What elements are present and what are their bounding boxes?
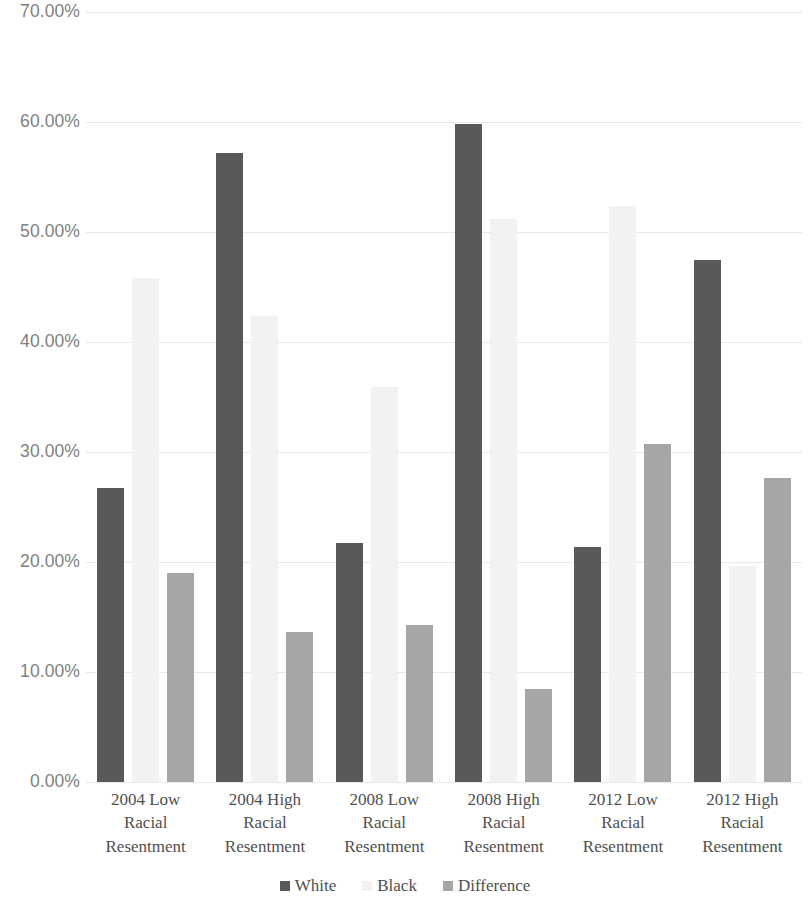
bar-difference[interactable] <box>764 478 791 782</box>
x-axis-tick-label-line: 2004 Low <box>86 788 205 811</box>
x-axis-tick-label-line: 2012 High <box>683 788 802 811</box>
x-axis-tick-label: 2004 LowRacialResentment <box>86 788 205 858</box>
x-axis-tick-label: 2008 LowRacialResentment <box>325 788 444 858</box>
bar-slot <box>336 12 363 782</box>
x-axis-tick-label: 2008 HighRacialResentment <box>444 788 563 858</box>
bar-slot <box>216 12 243 782</box>
y-axis-tick-label: 40.00% <box>2 333 80 351</box>
bar-black[interactable] <box>490 219 517 782</box>
bar-slot <box>406 12 433 782</box>
bar-group <box>325 12 444 782</box>
y-axis-tick-label: 30.00% <box>2 443 80 461</box>
bar-group <box>86 12 205 782</box>
x-axis-tick-label-line: Resentment <box>444 835 563 858</box>
bar-white[interactable] <box>574 547 601 782</box>
legend-label: White <box>295 876 337 896</box>
bar-slot <box>97 12 124 782</box>
bar-white[interactable] <box>216 153 243 782</box>
legend-item-difference[interactable]: Difference <box>443 876 530 896</box>
bar-chart: 0.00%10.00%20.00%30.00%40.00%50.00%60.00… <box>0 0 810 907</box>
x-axis-tick-label-line: Racial <box>325 811 444 834</box>
bar-slot <box>525 12 552 782</box>
bar-slot <box>371 12 398 782</box>
bar-slot <box>490 12 517 782</box>
bar-slot <box>644 12 671 782</box>
bar-black[interactable] <box>132 278 159 782</box>
y-axis-tick-label: 50.00% <box>2 223 80 241</box>
y-axis-tick-label: 10.00% <box>2 663 80 681</box>
bar-group <box>563 12 682 782</box>
y-axis-tick-label: 20.00% <box>2 553 80 571</box>
x-axis-tick-label-line: Resentment <box>205 835 324 858</box>
legend-item-white[interactable]: White <box>280 876 337 896</box>
bar-slot <box>286 12 313 782</box>
bar-white[interactable] <box>694 260 721 783</box>
bar-groups <box>86 12 802 782</box>
x-axis-tick-label: 2012 HighRacialResentment <box>683 788 802 858</box>
bar-slot <box>574 12 601 782</box>
x-axis-tick-label-line: Resentment <box>325 835 444 858</box>
bar-slot <box>694 12 721 782</box>
bar-black[interactable] <box>251 316 278 782</box>
legend-swatch-icon <box>362 881 372 891</box>
bar-slot <box>167 12 194 782</box>
x-axis-tick-label-line: Resentment <box>86 835 205 858</box>
bar-difference[interactable] <box>525 689 552 783</box>
x-axis-tick-label-line: Racial <box>205 811 324 834</box>
x-axis-tick-label-line: 2004 High <box>205 788 324 811</box>
x-axis-tick-label-line: Resentment <box>563 835 682 858</box>
bar-difference[interactable] <box>644 444 671 782</box>
bar-difference[interactable] <box>286 632 313 782</box>
y-axis-tick-label: 60.00% <box>2 113 80 131</box>
x-axis-tick-label-line: Racial <box>683 811 802 834</box>
bar-slot <box>729 12 756 782</box>
bar-group <box>444 12 563 782</box>
bar-slot <box>132 12 159 782</box>
x-axis-tick-label-line: Racial <box>444 811 563 834</box>
x-axis-tick-label-line: 2008 Low <box>325 788 444 811</box>
legend-label: Black <box>377 876 417 896</box>
bar-slot <box>455 12 482 782</box>
x-axis-tick-label-line: 2008 High <box>444 788 563 811</box>
bar-difference[interactable] <box>167 573 194 782</box>
x-axis-tick-label-line: 2012 Low <box>563 788 682 811</box>
y-axis: 0.00%10.00%20.00%30.00%40.00%50.00%60.00… <box>0 12 80 782</box>
bar-black[interactable] <box>729 566 756 782</box>
y-axis-tick-label: 0.00% <box>2 773 80 791</box>
legend-swatch-icon <box>280 881 290 891</box>
x-axis-tick-label: 2012 LowRacialResentment <box>563 788 682 858</box>
bar-slot <box>251 12 278 782</box>
chart-legend: WhiteBlackDifference <box>0 876 810 896</box>
bar-difference[interactable] <box>406 625 433 782</box>
legend-item-black[interactable]: Black <box>362 876 417 896</box>
gridline <box>86 782 802 783</box>
y-axis-tick-label: 70.00% <box>2 3 80 21</box>
legend-swatch-icon <box>443 881 453 891</box>
bar-white[interactable] <box>455 124 482 782</box>
x-axis-tick-label-line: Racial <box>86 811 205 834</box>
bar-slot <box>609 12 636 782</box>
bar-white[interactable] <box>336 543 363 782</box>
bar-black[interactable] <box>371 387 398 782</box>
bar-group <box>205 12 324 782</box>
x-axis-category-labels: 2004 LowRacialResentment2004 HighRacialR… <box>86 788 802 858</box>
x-axis-tick-label-line: Resentment <box>683 835 802 858</box>
bar-black[interactable] <box>609 206 636 782</box>
legend-label: Difference <box>458 876 530 896</box>
bar-slot <box>764 12 791 782</box>
x-axis-tick-label: 2004 HighRacialResentment <box>205 788 324 858</box>
bar-group <box>683 12 802 782</box>
x-axis-tick-label-line: Racial <box>563 811 682 834</box>
bar-white[interactable] <box>97 488 124 782</box>
